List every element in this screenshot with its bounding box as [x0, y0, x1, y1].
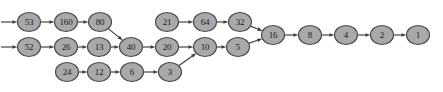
node-label-40: 40 — [127, 42, 136, 52]
node-label-10: 10 — [201, 42, 210, 52]
edge-e-12-6 — [111, 70, 121, 74]
edge-e-21-64 — [179, 20, 194, 24]
edge-e-5-16 — [249, 39, 263, 44]
graph-node-13[interactable]: 13 — [88, 38, 111, 57]
edge-e-26-13 — [78, 45, 88, 49]
graph-node-160[interactable]: 160 — [55, 13, 78, 32]
entry-arrow-entry-middle — [1, 45, 18, 49]
edge-e-2-1 — [394, 33, 407, 37]
graph-node-64[interactable]: 64 — [194, 13, 217, 32]
graph-node-8[interactable]: 8 — [299, 26, 322, 45]
graph-node-5[interactable]: 5 — [227, 38, 250, 57]
graph-node-53[interactable]: 53 — [18, 13, 41, 32]
edge-e-52-26 — [41, 45, 55, 49]
node-label-24: 24 — [63, 67, 72, 77]
edge-e-8-4 — [322, 33, 335, 37]
graph-node-4[interactable]: 4 — [335, 26, 358, 45]
edge-e-16-8 — [285, 33, 299, 37]
graph-svg: 53160802164325226134020105241263168421 — [0, 0, 443, 92]
node-label-80: 80 — [96, 17, 105, 27]
graph-node-2[interactable]: 2 — [371, 26, 394, 45]
node-label-16: 16 — [269, 30, 278, 40]
graph-node-24[interactable]: 24 — [56, 63, 79, 82]
edge-e-40-20 — [143, 45, 156, 49]
graph-node-32[interactable]: 32 — [229, 13, 252, 32]
graph-node-10[interactable]: 10 — [194, 38, 217, 57]
node-label-8: 8 — [308, 30, 313, 40]
graph-node-12[interactable]: 12 — [88, 63, 111, 82]
graph-node-52[interactable]: 52 — [18, 38, 41, 57]
graph-node-6[interactable]: 6 — [121, 63, 144, 82]
edge-e-10-5 — [217, 45, 227, 49]
graph-node-80[interactable]: 80 — [89, 13, 112, 32]
entry-arrow-entry-top — [1, 20, 18, 24]
node-label-6: 6 — [130, 67, 135, 77]
node-label-3: 3 — [168, 67, 173, 77]
node-label-13: 13 — [95, 42, 104, 52]
edge-e-53-160 — [41, 20, 55, 24]
edge-e-64-32 — [217, 20, 229, 24]
edge-e-3-10 — [179, 53, 197, 66]
node-label-32: 32 — [236, 17, 245, 27]
graph-node-3[interactable]: 3 — [159, 63, 182, 82]
node-label-26: 26 — [62, 42, 71, 52]
node-label-2: 2 — [380, 30, 384, 40]
node-label-21: 21 — [163, 17, 172, 27]
edge-e-80-40 — [108, 29, 123, 41]
node-label-5: 5 — [236, 42, 241, 52]
node-label-53: 53 — [25, 17, 34, 27]
node-label-64: 64 — [201, 17, 210, 27]
edge-e-32-16 — [250, 26, 262, 31]
edge-e-24-12 — [79, 70, 88, 74]
node-label-52: 52 — [25, 42, 34, 52]
graph-node-21[interactable]: 21 — [156, 13, 179, 32]
node-label-20: 20 — [163, 42, 172, 52]
graph-node-40[interactable]: 40 — [120, 38, 143, 57]
edge-e-4-2 — [358, 33, 371, 37]
graph-node-26[interactable]: 26 — [55, 38, 78, 57]
edge-e-13-40 — [111, 45, 120, 49]
graph-node-20[interactable]: 20 — [156, 38, 179, 57]
node-label-12: 12 — [95, 67, 104, 77]
graph-node-1[interactable]: 1 — [407, 26, 430, 45]
edge-e-6-3 — [144, 70, 159, 74]
graph-canvas: 53160802164325226134020105241263168421 — [0, 0, 443, 92]
node-label-1: 1 — [416, 30, 420, 40]
edge-e-160-80 — [78, 20, 89, 24]
node-label-4: 4 — [344, 30, 349, 40]
node-label-160: 160 — [60, 17, 74, 27]
graph-node-16[interactable]: 16 — [262, 26, 285, 45]
edge-e-20-10 — [179, 45, 194, 49]
